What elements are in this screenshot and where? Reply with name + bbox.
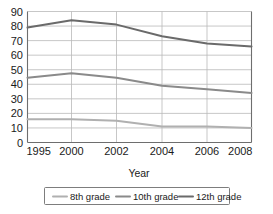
series-line-10th-grade	[28, 73, 252, 93]
chart-canvas: 0102030405060708090 19952000200220042006…	[0, 0, 273, 214]
series-line-8th-grade	[28, 119, 252, 128]
x-tick-label: 2002	[104, 145, 128, 157]
legend-label: 12th grade	[196, 191, 241, 202]
legend-items-group: 8th grade10th grade12th grade	[53, 191, 241, 202]
y-tick-label: 40	[11, 78, 23, 90]
y-axis-tick-labels: 0102030405060708090	[11, 6, 23, 149]
x-tick-label: 2008	[228, 145, 252, 157]
x-tick-label: 1995	[27, 145, 51, 157]
x-tick-label: 2000	[59, 145, 83, 157]
x-axis-tick-labels: 199520002002200420062008	[27, 145, 253, 157]
y-tick-label: 10	[11, 122, 23, 134]
y-tick-label: 20	[11, 107, 23, 119]
y-tick-label: 60	[11, 49, 23, 61]
y-tick-label: 70	[11, 35, 23, 47]
legend-label: 8th grade	[70, 191, 110, 202]
series-line-12th-grade	[28, 20, 252, 46]
legend-label: 10th grade	[133, 191, 178, 202]
y-tick-label: 90	[11, 6, 23, 18]
y-tick-label: 80	[11, 20, 23, 32]
y-tick-label: 0	[17, 137, 23, 149]
line-chart: 0102030405060708090 19952000200220042006…	[0, 0, 273, 214]
x-axis-title: Year	[128, 167, 150, 179]
y-tick-label: 50	[11, 64, 23, 76]
x-tick-label: 2006	[195, 145, 219, 157]
series-lines-group	[28, 20, 252, 128]
x-tick-label: 2004	[150, 145, 174, 157]
horizontal-gridlines	[28, 12, 252, 128]
y-tick-label: 30	[11, 93, 23, 105]
